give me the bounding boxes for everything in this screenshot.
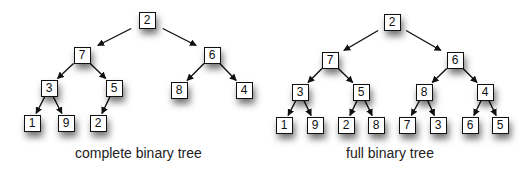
tree-node: 4 bbox=[477, 84, 494, 101]
tree-node: 5 bbox=[106, 80, 123, 97]
tree-edge-arrow bbox=[338, 69, 353, 83]
tree-edge-arrow bbox=[308, 69, 322, 83]
tree-node: 1 bbox=[24, 115, 41, 132]
tree-node: 5 bbox=[492, 117, 509, 134]
tree-node: 2 bbox=[90, 115, 107, 132]
tree-node: 6 bbox=[204, 47, 221, 64]
tree-edge-arrow bbox=[406, 31, 441, 51]
tree-edge-arrow bbox=[36, 97, 45, 114]
tree-edge-arrow bbox=[432, 69, 447, 83]
tree-node: 9 bbox=[307, 117, 324, 134]
tree-node: 1 bbox=[276, 117, 293, 134]
tree-edge-arrow bbox=[304, 101, 311, 116]
tree-edge-arrow bbox=[163, 29, 196, 46]
tree-node: 8 bbox=[171, 82, 188, 99]
tree-edge-arrow bbox=[365, 101, 372, 116]
tree-node: 2 bbox=[338, 117, 355, 134]
tree-edge-arrow bbox=[489, 101, 496, 116]
tree-edge-arrow bbox=[90, 64, 106, 79]
tree-node: 8 bbox=[368, 117, 385, 134]
tree-edge-arrow bbox=[463, 69, 477, 83]
tree-node: 7 bbox=[399, 117, 416, 134]
tree-node: 3 bbox=[292, 84, 309, 101]
tree-node: 7 bbox=[74, 47, 91, 64]
tree-edge-arrow bbox=[411, 101, 419, 116]
tree-edge-arrow bbox=[474, 101, 481, 116]
tree-node: 6 bbox=[462, 117, 479, 134]
tree-edge-arrow bbox=[98, 29, 131, 46]
tree-edge-arrow bbox=[428, 101, 435, 116]
tree-node: 6 bbox=[447, 52, 464, 69]
tree-edge-arrow bbox=[344, 31, 378, 51]
tree-node: 3 bbox=[430, 117, 447, 134]
tree-edge-arrow bbox=[350, 101, 357, 116]
tree-node: 2 bbox=[139, 12, 156, 29]
tree-edge-arrow bbox=[220, 64, 236, 81]
tree-edge-arrow bbox=[53, 97, 62, 114]
caption-full-binary-tree: full binary tree bbox=[346, 145, 434, 161]
tree-node: 9 bbox=[58, 115, 75, 132]
tree-edge-arrow bbox=[187, 64, 204, 81]
caption-complete-binary-tree: complete binary tree bbox=[75, 145, 202, 161]
tree-edge-arrow bbox=[288, 101, 296, 116]
tree-node: 7 bbox=[322, 52, 339, 69]
tree-edge-arrow bbox=[58, 64, 74, 79]
tree-node: 3 bbox=[41, 80, 58, 97]
tree-edge-arrow bbox=[102, 97, 110, 114]
tree-node: 4 bbox=[236, 82, 253, 99]
tree-node: 5 bbox=[353, 84, 370, 101]
tree-node: 8 bbox=[416, 84, 433, 101]
tree-node: 2 bbox=[384, 14, 401, 31]
